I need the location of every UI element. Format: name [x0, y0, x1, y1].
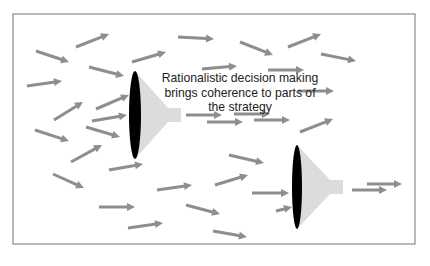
caption-text: Rationalistic decision making brings coh… — [150, 71, 330, 115]
caption-line-2: brings coherence to parts of — [150, 86, 330, 101]
caption-line-1: Rationalistic decision making — [150, 71, 330, 86]
caption-line-3: the strategy — [150, 100, 330, 115]
strategy-funnel-diagram — [0, 0, 430, 266]
